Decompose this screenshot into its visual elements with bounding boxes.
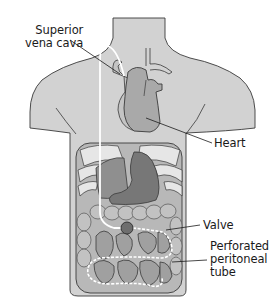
shunt-diagram: Superior vena cava Heart Valve Perforate…: [0, 0, 278, 307]
label-perforated-peritoneal-tube: Perforated peritoneal tube: [210, 240, 269, 279]
label-superior-vena-cava: Superior vena cava: [25, 24, 83, 50]
valve: [121, 222, 133, 234]
label-heart: Heart: [214, 137, 246, 150]
label-valve: Valve: [203, 219, 234, 232]
